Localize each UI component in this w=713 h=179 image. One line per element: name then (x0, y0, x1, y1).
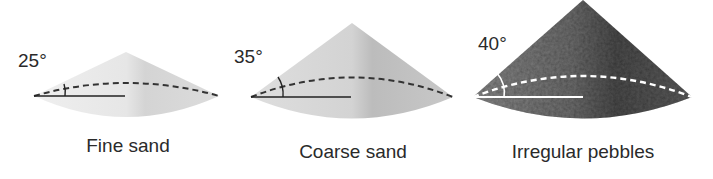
cone-body (251, 23, 453, 119)
angle-label: 35° (234, 46, 263, 67)
angle-label: 40° (478, 33, 507, 54)
angle-of-repose-diagram: 25° Fine sand 35° Coarse sand 40° Irregu… (0, 0, 713, 179)
caption: Irregular pebbles (512, 141, 655, 162)
cone-coarse-sand: 35° Coarse sand (234, 23, 453, 162)
cone-body (34, 52, 219, 117)
cone-body (473, 0, 692, 119)
caption: Coarse sand (299, 141, 407, 162)
angle-label: 25° (18, 50, 47, 71)
caption: Fine sand (86, 135, 169, 156)
cone-irregular-pebbles: 40° Irregular pebbles (473, 0, 692, 162)
cone-fine-sand: 25° Fine sand (18, 50, 219, 156)
